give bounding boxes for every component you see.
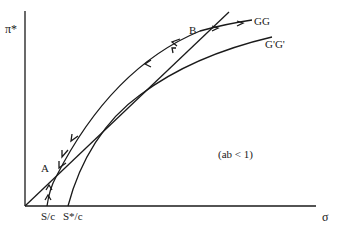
point-b-label: B xyxy=(189,24,196,36)
g-prime-g-prime-curve xyxy=(68,37,272,206)
phase-diagram: π* σ GG G'G' B A S/c S*/c (ab < 1) xyxy=(0,0,343,234)
point-a-label: A xyxy=(41,162,49,174)
x-tick-s-star-over-c: S*/c xyxy=(63,210,83,222)
x-axis-label: σ xyxy=(322,210,329,224)
g-prime-g-prime-label: G'G' xyxy=(265,38,285,50)
y-axis-label: π* xyxy=(5,22,17,36)
x-tick-s-over-c: S/c xyxy=(41,210,55,222)
arrow-icon xyxy=(45,21,243,200)
condition-label: (ab < 1) xyxy=(218,148,253,161)
gg-label: GG xyxy=(254,15,270,27)
